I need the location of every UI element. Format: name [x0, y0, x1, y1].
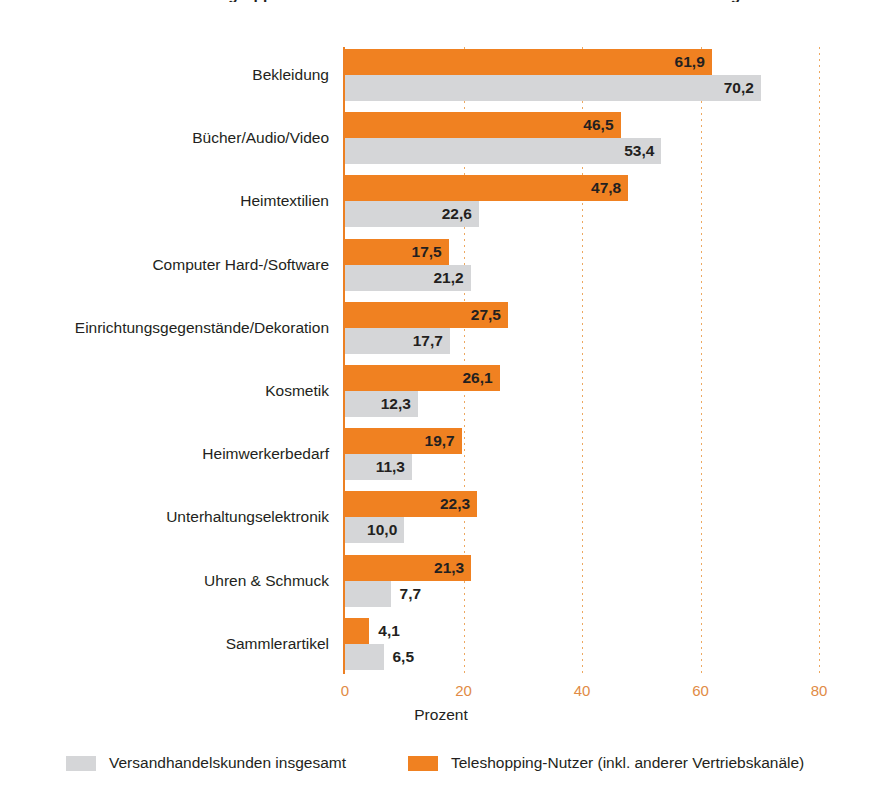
bar-value-label: 6,5	[384, 644, 415, 670]
bar-value-label: 11,3	[376, 454, 405, 480]
bar-teleshopping: 47,8	[345, 175, 628, 201]
bar-row: Bücher/Audio/Video46,553,4	[343, 112, 819, 164]
bar-value-label: 17,5	[412, 239, 442, 265]
x-tick-label: 60	[692, 682, 709, 699]
bar-versandhandel: 17,7	[345, 328, 450, 354]
bar-value-label: 7,7	[391, 581, 422, 607]
bar-row: Unterhaltungselektronik22,310,0	[343, 491, 819, 543]
x-tick-label: 80	[811, 682, 828, 699]
legend-label: Versandhandelskunden insgesamt	[109, 752, 346, 774]
bar-versandhandel: 11,3	[345, 454, 412, 480]
bar-value-label: 53,4	[624, 138, 654, 164]
bar-value-label: 46,5	[583, 112, 613, 138]
bar-versandhandel: 53,4	[345, 138, 661, 164]
bar-row: Computer Hard-/Software17,521,2	[343, 239, 819, 291]
legend-swatch	[408, 756, 438, 771]
bar-value-label: 21,2	[433, 265, 463, 291]
bar-row: Uhren & Schmuck21,37,7	[343, 555, 819, 607]
bar-teleshopping: 26,1	[345, 365, 500, 391]
bar-row: Sammlerartikel4,16,5	[343, 618, 819, 670]
bar-teleshopping: 27,5	[345, 302, 508, 328]
category-label: Bücher/Audio/Video	[0, 129, 329, 147]
bar-value-label: 22,3	[440, 491, 470, 517]
bar-versandhandel: 70,2	[345, 75, 761, 101]
bar-value-label: 10,0	[367, 517, 397, 543]
x-tick-label: 0	[341, 682, 349, 699]
bar-value-label: 26,1	[462, 365, 492, 391]
bar-value-label: 70,2	[724, 75, 754, 101]
bar-teleshopping: 61,9	[345, 49, 712, 75]
bar-row: Kosmetik26,112,3	[343, 365, 819, 417]
bar-versandhandel: 22,6	[345, 201, 479, 227]
legend-item[interactable]: Teleshopping-Nutzer (inkl. anderer Vertr…	[408, 752, 804, 774]
category-label: Unterhaltungselektronik	[0, 508, 329, 526]
bar-versandhandel: 10,0	[345, 517, 404, 543]
bar-value-label: 12,3	[381, 391, 411, 417]
category-label: Heimwerkerbedarf	[0, 445, 329, 463]
bar-value-label: 61,9	[675, 49, 705, 75]
bar-value-label: 4,1	[369, 618, 400, 644]
bar-versandhandel: 7,7	[345, 581, 391, 607]
bar-value-label: 21,3	[434, 555, 464, 581]
legend-item[interactable]: Versandhandelskunden insgesamt	[66, 752, 346, 774]
category-label: Sammlerartikel	[0, 635, 329, 653]
legend-label: Teleshopping-Nutzer (inkl. anderer Vertr…	[451, 752, 804, 774]
legend-swatch	[66, 756, 96, 771]
bar-teleshopping: 17,5	[345, 239, 449, 265]
bar-versandhandel: 12,3	[345, 391, 418, 417]
plot-area: Bekleidung61,970,2Bücher/Audio/Video46,5…	[343, 47, 819, 674]
bar-row: Einrichtungsgegenstände/Dekoration27,517…	[343, 302, 819, 354]
bar-value-label: 19,7	[425, 428, 455, 454]
x-tick-label: 20	[455, 682, 472, 699]
category-label: Kosmetik	[0, 382, 329, 400]
bar-value-label: 47,8	[591, 175, 621, 201]
bar-teleshopping: 21,3	[345, 555, 471, 581]
x-tick-label: 40	[574, 682, 591, 699]
bar-teleshopping: 22,3	[345, 491, 477, 517]
bar-versandhandel: 21,2	[345, 265, 471, 291]
category-label: Bekleidung	[0, 66, 329, 84]
category-label: Heimtextilien	[0, 192, 329, 210]
bar-versandhandel: 6,5	[345, 644, 384, 670]
bar-value-label: 17,7	[413, 328, 443, 354]
bar-value-label: 22,6	[442, 201, 472, 227]
category-label: Einrichtungsgegenstände/Dekoration	[0, 319, 329, 337]
bar-row: Bekleidung61,970,2	[343, 49, 819, 101]
bar-teleshopping: 19,7	[345, 428, 462, 454]
x-axis-title: Prozent	[0, 706, 882, 724]
bar-row: Heimtextilien47,822,6	[343, 175, 819, 227]
bar-teleshopping: 4,1	[345, 618, 369, 644]
category-label: Uhren & Schmuck	[0, 572, 329, 590]
bar-value-label: 27,5	[471, 302, 501, 328]
chart-legend: Versandhandelskunden insgesamtTeleshoppi…	[0, 752, 882, 782]
bar-teleshopping: 46,5	[345, 112, 621, 138]
bar-row: Heimwerkerbedarf19,711,3	[343, 428, 819, 480]
chart-title: Bei welchen Warengruppen haben Sie in de…	[0, 0, 882, 2]
category-label: Computer Hard-/Software	[0, 256, 329, 274]
gridline-80	[819, 47, 820, 674]
